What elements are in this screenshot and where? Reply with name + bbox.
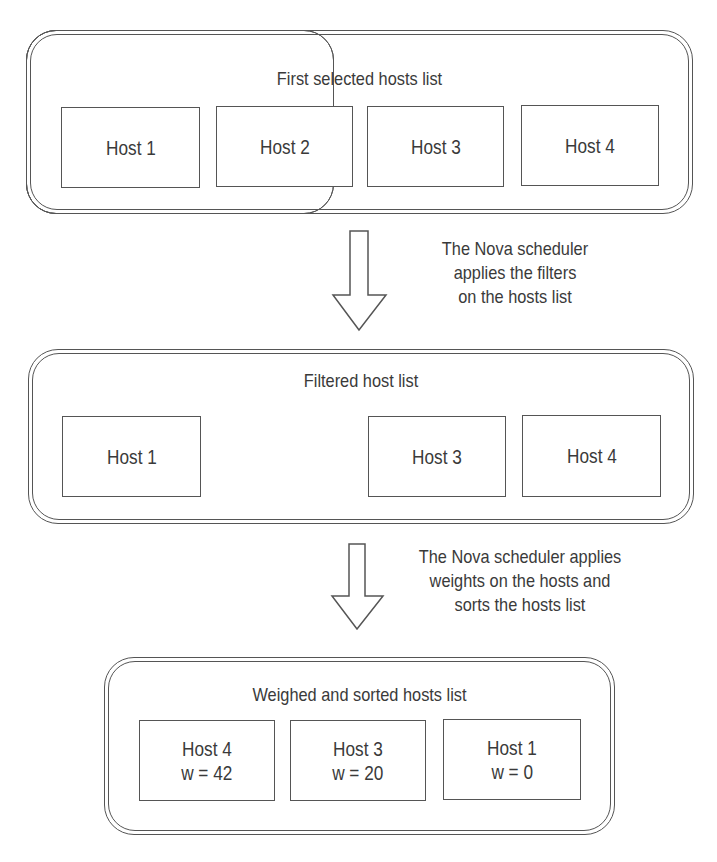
- caption-line: applies the filters: [438, 261, 593, 285]
- host-box: Host 3: [367, 106, 504, 187]
- down-arrow-icon: [330, 228, 390, 334]
- host-name: Host 2: [260, 135, 310, 159]
- host-box: Host 1: [61, 107, 200, 188]
- caption-line: on the hosts list: [438, 285, 593, 309]
- host-box: Host 4 w = 42: [139, 720, 275, 801]
- host-name: Host 1: [107, 445, 157, 469]
- host-weight: w = 20: [332, 761, 383, 785]
- host-name: Host 4: [565, 134, 615, 158]
- host-weight: w = 42: [181, 761, 232, 785]
- stage-title: First selected hosts list: [74, 68, 646, 90]
- host-box: Host 4: [522, 415, 661, 497]
- caption-line: The Nova scheduler applies: [408, 545, 632, 569]
- host-name: Host 3: [333, 737, 383, 761]
- host-name: Host 1: [487, 736, 537, 760]
- stage-title: Weighed and sorted hosts list: [141, 684, 579, 706]
- host-name: Host 3: [412, 445, 462, 469]
- caption-line: The Nova scheduler: [438, 237, 593, 261]
- first-selected-hosts-panel: First selected hosts list Host 1 Host 2 …: [26, 30, 693, 214]
- host-box: Host 1 w = 0: [443, 719, 581, 800]
- host-weight: w = 0: [491, 760, 533, 784]
- host-box: Host 2: [216, 106, 353, 187]
- caption-line: weights on the hosts and: [408, 569, 632, 593]
- host-box: Host 1: [62, 416, 201, 497]
- stage-title: Filtered host list: [75, 370, 646, 392]
- host-name: Host 3: [411, 135, 461, 159]
- host-name: Host 4: [182, 737, 232, 761]
- host-box: Host 3: [368, 416, 506, 497]
- transition-caption: The Nova scheduler applies weights on th…: [408, 545, 632, 617]
- host-box: Host 4: [521, 105, 659, 186]
- down-arrow-icon: [329, 541, 387, 633]
- host-name: Host 1: [106, 136, 156, 160]
- caption-line: sorts the hosts list: [408, 593, 632, 617]
- filtered-hosts-panel: Filtered host list Host 1 Host 3 Host 4: [28, 349, 694, 524]
- host-name: Host 4: [567, 444, 617, 468]
- transition-caption: The Nova scheduler applies the filters o…: [438, 237, 593, 309]
- weighed-sorted-hosts-panel: Weighed and sorted hosts list Host 4 w =…: [104, 657, 615, 835]
- host-box: Host 3 w = 20: [290, 720, 426, 801]
